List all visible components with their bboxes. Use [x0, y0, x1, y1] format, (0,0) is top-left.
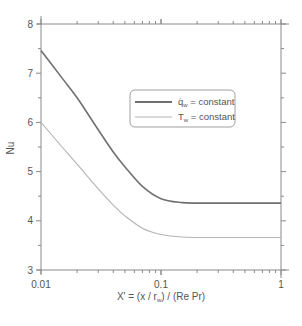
y-tick-label: 8: [27, 19, 33, 30]
y-tick-label: 7: [27, 68, 33, 79]
x-tick-label: 1: [278, 279, 284, 290]
y-tick-label: 3: [27, 265, 33, 276]
plot-frame: [37, 16, 289, 278]
y-tick-label: 4: [27, 215, 33, 226]
nusselt-chart: 3456780.010.11 Nu X' = (x / rw) / (Re Pr…: [0, 0, 302, 326]
x-tick-label: 0.1: [154, 279, 168, 290]
y-axis-label: Nu: [5, 142, 16, 155]
x-axis-label: X' = (x / rw) / (Re Pr): [117, 291, 205, 303]
series-lines: [41, 51, 281, 238]
axis-ticks: 3456780.010.11: [27, 19, 286, 291]
y-tick-label: 6: [27, 117, 33, 128]
legend: q̇w = constant Tw = constant: [130, 90, 235, 127]
y-tick-label: 5: [27, 166, 33, 177]
series-wall-temp-constant: [41, 122, 281, 237]
x-tick-label: 0.01: [31, 279, 51, 290]
